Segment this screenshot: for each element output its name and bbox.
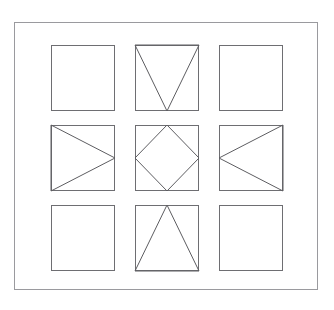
cell-middle-center-box (136, 126, 199, 191)
cell-middle-left (51, 125, 115, 191)
cell-top-left (51, 45, 115, 111)
cell-middle-right-triangle-left (219, 125, 283, 191)
cell-bottom-left-box (52, 206, 115, 271)
cell-top-center (135, 45, 199, 111)
cell-middle-left-triangle-right (51, 125, 115, 191)
cell-middle-left-box (52, 126, 115, 191)
clipped-text-artifact (0, 0, 334, 5)
cell-top-center-box (136, 46, 199, 111)
matrix-grid (51, 45, 284, 271)
cell-bottom-center (135, 205, 199, 271)
cell-middle-right (219, 125, 283, 191)
cell-bottom-center-box (136, 206, 199, 271)
cell-top-left-box (52, 46, 115, 111)
cell-bottom-right (219, 205, 283, 271)
cell-middle-right-box (220, 126, 283, 191)
cell-bottom-right-box (220, 206, 283, 271)
cell-top-right-box (220, 46, 283, 111)
cell-bottom-center-triangle-up (135, 205, 199, 271)
cell-bottom-left (51, 205, 115, 271)
cell-top-right (219, 45, 283, 111)
outer-border (14, 22, 318, 290)
cell-top-center-triangle-down (135, 45, 199, 111)
cell-middle-center (135, 125, 199, 191)
cell-middle-center-diamond (135, 125, 199, 191)
